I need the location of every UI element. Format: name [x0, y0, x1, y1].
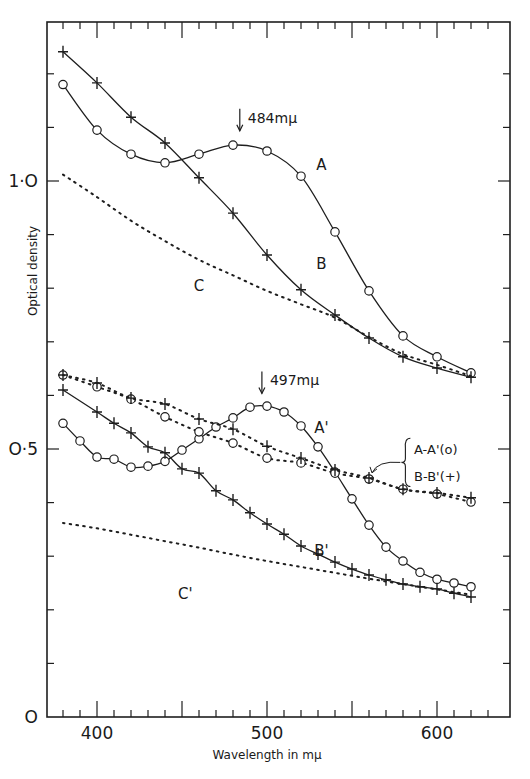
plus-marker: [228, 423, 238, 435]
difference-legend-label: A-A'(o): [414, 442, 458, 457]
circle-marker: [127, 150, 135, 158]
circle-marker: [365, 521, 373, 529]
circle-marker: [263, 402, 271, 410]
circle-marker: [144, 462, 152, 470]
plus-marker: [194, 413, 204, 425]
circle-marker: [297, 172, 305, 180]
plus-marker: [58, 384, 68, 396]
plus-marker: [160, 398, 170, 410]
curve-label: C: [194, 277, 204, 295]
plus-marker: [347, 563, 357, 575]
series-a-prime: [59, 402, 475, 591]
annotations: 484mμ497mμABCA'B'C'A-A'(o)B-B'(+): [178, 109, 461, 603]
x-axis-title: Wavelength in mμ: [212, 748, 321, 762]
series-line: [63, 52, 471, 377]
circle-marker: [263, 454, 271, 462]
circle-marker: [161, 159, 169, 167]
plus-marker: [279, 528, 289, 540]
optical-density-chart: 400500600OO·51·OWavelength in mμOptical …: [0, 0, 530, 779]
circle-marker: [127, 463, 135, 471]
peak-annotation: 497mμ: [270, 372, 319, 388]
circle-marker: [93, 126, 101, 134]
circle-marker: [178, 446, 186, 454]
plus-marker: [262, 518, 272, 530]
plus-marker: [245, 507, 255, 519]
circle-marker: [76, 437, 84, 445]
plus-marker: [58, 369, 68, 381]
series-c: [63, 175, 471, 377]
x-tick-label: 400: [81, 723, 113, 743]
y-axis-title: Optical density: [26, 226, 40, 316]
series-line: [63, 406, 471, 587]
plus-marker: [194, 467, 204, 479]
series-line: [63, 175, 471, 377]
circle-marker: [399, 332, 407, 340]
circle-marker: [399, 557, 407, 565]
curve-label: B: [316, 255, 326, 273]
plus-marker: [330, 556, 340, 568]
circle-marker: [433, 575, 441, 583]
plus-marker: [262, 440, 272, 452]
plus-marker: [92, 406, 102, 418]
y-tick-label: O: [25, 707, 38, 727]
circle-marker: [229, 439, 237, 447]
circle-marker: [110, 455, 118, 463]
y-tick-label: 1·O: [8, 171, 38, 191]
circle-marker: [93, 453, 101, 461]
plus-marker: [381, 574, 391, 586]
data-series: [58, 46, 476, 603]
circle-marker: [161, 413, 169, 421]
circle-marker: [365, 287, 373, 295]
plus-marker: [466, 591, 476, 603]
y-tick-label: O·5: [8, 439, 38, 459]
plus-marker: [432, 362, 442, 374]
circle-marker: [280, 408, 288, 416]
plus-marker: [143, 441, 153, 453]
plus-marker: [126, 427, 136, 439]
circle-marker: [297, 422, 305, 430]
curve-label: B': [314, 542, 328, 560]
circle-marker: [195, 428, 203, 436]
circle-marker: [59, 419, 67, 427]
plus-marker: [177, 463, 187, 475]
curve-label: A: [316, 156, 327, 174]
circle-marker: [348, 495, 356, 503]
plus-marker: [160, 447, 170, 459]
plus-marker: [296, 540, 306, 552]
circle-marker: [229, 141, 237, 149]
difference-legend-label: B-B'(+): [414, 469, 461, 484]
circle-marker: [467, 583, 475, 591]
plus-marker: [58, 46, 68, 58]
brace-icon: [401, 438, 410, 486]
circle-marker: [433, 353, 441, 361]
circle-marker: [314, 443, 322, 451]
series-line: [63, 85, 471, 373]
plus-marker: [160, 137, 170, 149]
x-tick-label: 600: [421, 723, 453, 743]
curve-label: C': [178, 585, 193, 603]
series-c-prime: [63, 523, 471, 595]
circle-marker: [229, 414, 237, 422]
circle-marker: [195, 150, 203, 158]
circle-marker: [59, 80, 67, 88]
curve-label: A': [314, 419, 328, 437]
circle-marker: [331, 228, 339, 236]
axis-labels: 400500600OO·51·OWavelength in mμOptical …: [8, 171, 453, 762]
series-line: [63, 375, 471, 498]
peak-annotation: 484mμ: [248, 110, 297, 126]
plus-marker: [228, 494, 238, 506]
circle-marker: [416, 568, 424, 576]
circle-marker: [263, 147, 271, 155]
plus-marker: [126, 111, 136, 123]
plus-marker: [296, 284, 306, 296]
series-aao-prime: [59, 371, 475, 506]
circle-marker: [382, 543, 390, 551]
series-b-prime: [58, 384, 476, 603]
plus-marker: [109, 417, 119, 429]
circle-marker: [450, 579, 458, 587]
series-line: [63, 523, 471, 595]
circle-marker: [246, 403, 254, 411]
curved-arrow-icon: [372, 462, 400, 473]
x-tick-label: 500: [251, 723, 283, 743]
